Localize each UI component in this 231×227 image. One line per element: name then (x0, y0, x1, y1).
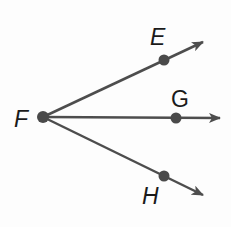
diagram-canvas: F E G H (0, 0, 231, 227)
point-e (159, 55, 170, 66)
ray-fh-line (43, 117, 203, 195)
ray-fg (43, 113, 220, 124)
point-g (171, 113, 182, 124)
rays-diagram: F E G H (0, 0, 231, 227)
ray-fh (43, 117, 203, 195)
label-g: G (171, 86, 189, 112)
label-h: H (142, 183, 159, 209)
point-h (159, 171, 170, 182)
label-f: F (14, 106, 30, 132)
ray-fg-line (43, 117, 220, 118)
label-e: E (150, 24, 166, 50)
vertex-f (37, 111, 49, 123)
